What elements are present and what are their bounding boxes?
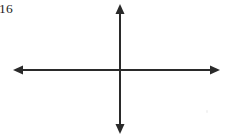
figure-page: 16 [0, 0, 227, 138]
y-axis-negative-arrowhead [116, 124, 125, 134]
x-axis-positive-arrowhead [210, 66, 220, 75]
axes-diagram [0, 0, 227, 138]
coordinate-axes-figure [0, 0, 227, 138]
scan-speck [206, 110, 208, 113]
x-axis-negative-arrowhead [13, 66, 23, 75]
y-axis-positive-arrowhead [116, 4, 125, 14]
